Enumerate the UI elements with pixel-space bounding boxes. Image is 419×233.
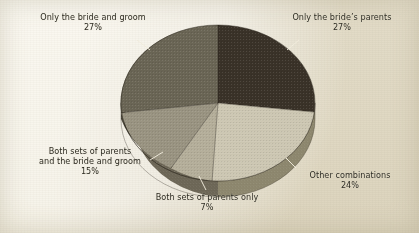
label-only-bride-and-groom-value: 27% [22,22,164,32]
chart-page: Only the bride and groom 27% Only the br… [0,0,419,233]
leader-line-bride-groom [137,40,150,50]
label-only-bride-and-groom: Only the bride and groom 27% [22,12,164,32]
label-both-sets-of-parents-only-value: 7% [128,202,286,212]
label-only-brides-parents: Only the bride’s parents 27% [272,12,412,32]
label-both-sets-and-bride-groom: Both sets of parents and the bride and g… [14,146,166,177]
label-both-sets-and-bride-groom-line1: Both sets of parents [49,146,132,156]
label-both-sets-of-parents-only-text: Both sets of parents only [156,192,259,202]
label-other-combinations: Other combinations 24% [286,170,414,190]
label-only-brides-parents-value: 27% [272,22,412,32]
label-only-brides-parents-text: Only the bride’s parents [292,12,391,22]
label-both-sets-and-bride-groom-value: 15% [14,166,166,176]
label-both-sets-of-parents-only: Both sets of parents only 7% [128,192,286,212]
label-only-bride-and-groom-text: Only the bride and groom [40,12,145,22]
label-other-combinations-value: 24% [286,180,414,190]
label-both-sets-and-bride-groom-line2: and the bride and groom [39,156,141,166]
label-other-combinations-text: Other combinations [310,170,391,180]
leader-line-brides-parents [287,40,299,50]
